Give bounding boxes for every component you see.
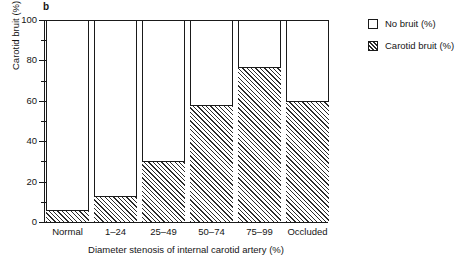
legend-label-no-bruit: No bruit (%): [385, 18, 436, 29]
bar-normal-no-bruit: [46, 20, 89, 222]
y-tick-label-80: 80: [26, 55, 37, 65]
plot-area: 100 80 60 40 20 0 Carotid bruit (%): [44, 20, 328, 222]
bar-50-74[interactable]: [190, 20, 233, 222]
bar-normal[interactable]: [46, 20, 89, 222]
bar-75-99-carotid-bruit: [238, 67, 281, 223]
panel-letter: b: [43, 1, 49, 12]
figure-panel-b: b 100 80 60 40 20 0 Carotid bruit (%): [0, 0, 475, 264]
legend-label-carotid-bruit: Carotid bruit (%): [385, 40, 454, 51]
legend-item-no-bruit[interactable]: No bruit (%): [368, 18, 454, 29]
x-tick-label-occluded: Occluded: [275, 226, 340, 237]
legend-item-carotid-bruit[interactable]: Carotid bruit (%): [368, 40, 454, 51]
bar-1-24-carotid-bruit: [94, 196, 137, 222]
bar-occluded[interactable]: [286, 20, 329, 222]
legend-swatch-hatched-icon: [368, 41, 378, 51]
axis-bottom-line: [44, 222, 328, 223]
y-tick-label-60: 60: [26, 96, 37, 106]
bar-normal-carotid-bruit: [46, 210, 89, 222]
legend-swatch-empty-icon: [368, 19, 378, 29]
bar-50-74-carotid-bruit: [190, 105, 233, 222]
y-tick-label-100: 100: [21, 15, 37, 25]
bar-75-99[interactable]: [238, 20, 281, 222]
y-axis-title: Carotid bruit (%): [10, 0, 21, 70]
x-axis-title: Diameter stenosis of internal carotid ar…: [44, 244, 328, 255]
y-tick-label-20: 20: [26, 177, 37, 187]
bar-1-24-no-bruit: [94, 20, 137, 222]
bar-1-24[interactable]: [94, 20, 137, 222]
bar-25-49[interactable]: [142, 20, 185, 222]
bar-occluded-carotid-bruit: [286, 101, 329, 222]
legend: No bruit (%) Carotid bruit (%): [368, 18, 454, 62]
bars-container: [44, 20, 328, 222]
bar-25-49-carotid-bruit: [142, 161, 185, 222]
y-tick-0: [39, 222, 44, 223]
y-tick-label-40: 40: [26, 136, 37, 146]
